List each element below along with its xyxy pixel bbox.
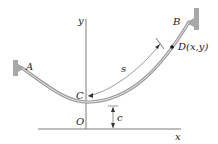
origin-label: O (76, 116, 84, 127)
sag-label: c (117, 112, 123, 123)
y-axis-label: y (77, 15, 84, 26)
point-c-label: C (76, 90, 84, 101)
point-a-label: A (25, 61, 33, 72)
point-d-label: D(x,y) (177, 41, 208, 52)
x-axis-label: x (175, 131, 181, 142)
point-d-marker (170, 45, 174, 49)
catenary-diagram: y x O C A B D(x,y) s c (0, 0, 218, 144)
arc-length-label: s (121, 63, 126, 74)
point-b-label: B (172, 16, 180, 27)
